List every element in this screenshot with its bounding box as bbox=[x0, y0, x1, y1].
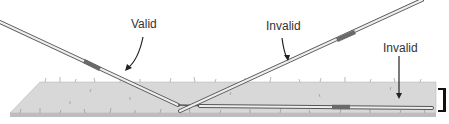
javelin-diagram bbox=[0, 0, 449, 124]
label-invalid-flat: Invalid bbox=[383, 41, 418, 55]
label-valid: Valid bbox=[131, 17, 157, 31]
edge-marker bbox=[443, 88, 446, 112]
label-invalid-steep: Invalid bbox=[266, 19, 301, 33]
turf-field bbox=[10, 77, 436, 117]
javelin-invalid-flat bbox=[200, 106, 432, 108]
arrow-valid-icon bbox=[128, 37, 143, 68]
